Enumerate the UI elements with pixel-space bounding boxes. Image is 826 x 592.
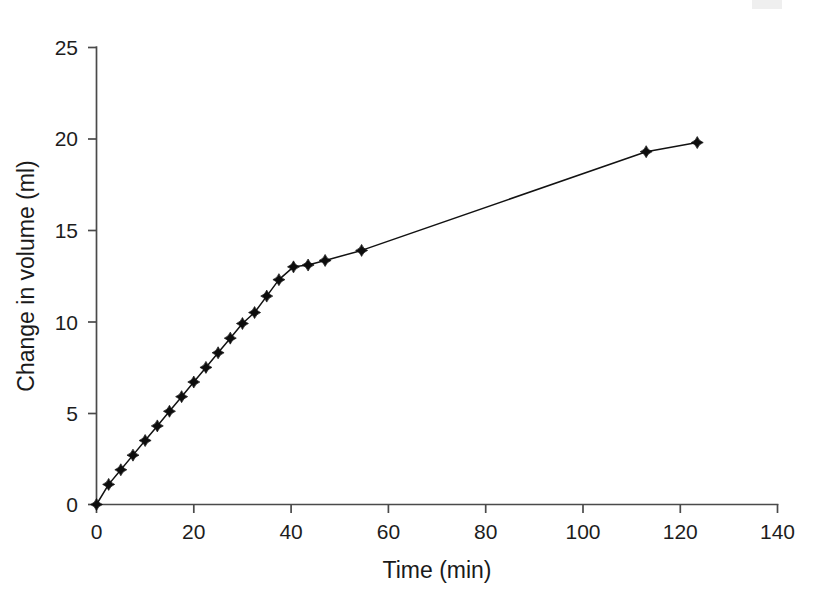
line-chart: 25 20 15 10 5 0 0 20 40 60 80 100 120 14… [0, 0, 826, 592]
x-tick-label: 0 [91, 520, 103, 543]
y-tick-label: 5 [66, 402, 78, 425]
x-tick-label: 40 [279, 520, 302, 543]
x-tick-label: 60 [377, 520, 400, 543]
y-tick-label: 0 [66, 493, 78, 516]
y-tick-label: 20 [55, 127, 78, 150]
chart-background [0, 0, 826, 592]
y-tick-label: 15 [55, 219, 78, 242]
y-tick-label: 10 [55, 311, 78, 334]
chart-figure: 25 20 15 10 5 0 0 20 40 60 80 100 120 14… [0, 0, 826, 592]
x-tick-label: 120 [663, 520, 698, 543]
x-axis-title: Time (min) [382, 557, 491, 583]
x-tick-label: 20 [182, 520, 205, 543]
y-tick-label: 25 [55, 36, 78, 59]
y-axis-title: Change in volume (ml) [13, 160, 39, 391]
x-tick-label: 80 [474, 520, 497, 543]
x-tick-label: 140 [760, 520, 795, 543]
x-tick-label: 100 [565, 520, 600, 543]
scan-artifact [752, 0, 782, 9]
